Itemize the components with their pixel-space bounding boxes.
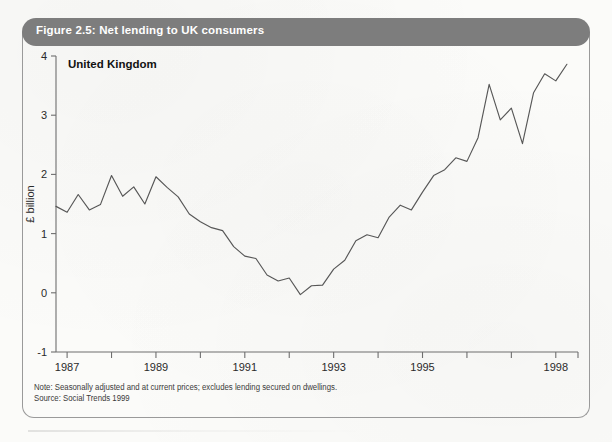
x-tick-label: 1989: [144, 361, 168, 373]
y-axis-title: £ billion: [24, 185, 36, 222]
x-tick-label: 1993: [321, 361, 345, 373]
net-lending-line-chart: 43210-1 198719891991199319951998 United …: [22, 46, 590, 418]
x-tick-label: 1998: [544, 361, 568, 373]
y-tick-label: 2: [41, 168, 47, 180]
x-tick-label: 1995: [410, 361, 434, 373]
figure-title: Figure 2.5: Net lending to UK consumers: [36, 24, 264, 36]
y-tick-label: 1: [41, 228, 47, 240]
y-tick-label: 4: [41, 50, 47, 62]
x-tick-label: 1987: [55, 361, 79, 373]
series-annotation-label: United Kingdom: [68, 58, 157, 70]
plot-area: 43210-1 198719891991199319951998 United …: [22, 46, 590, 418]
figure-card: Figure 2.5: Net lending to UK consumers …: [22, 18, 590, 418]
page-smudge: [28, 430, 368, 432]
data-series-united-kingdom: [56, 64, 567, 294]
y-tick-label: 0: [41, 287, 47, 299]
y-tick-label: -1: [37, 346, 47, 358]
x-tick-label: 1991: [233, 361, 257, 373]
source-text: Source: Social Trends 1999: [34, 393, 536, 404]
y-axis: 43210-1: [37, 50, 56, 358]
y-tick-label: 3: [41, 109, 47, 121]
figure-title-bar: Figure 2.5: Net lending to UK consumers: [22, 18, 590, 46]
x-axis: 198719891991199319951998: [55, 352, 578, 373]
note-text: Note: Seasonally adjusted and at current…: [34, 382, 536, 393]
figure-footnotes: Note: Seasonally adjusted and at current…: [34, 382, 574, 404]
